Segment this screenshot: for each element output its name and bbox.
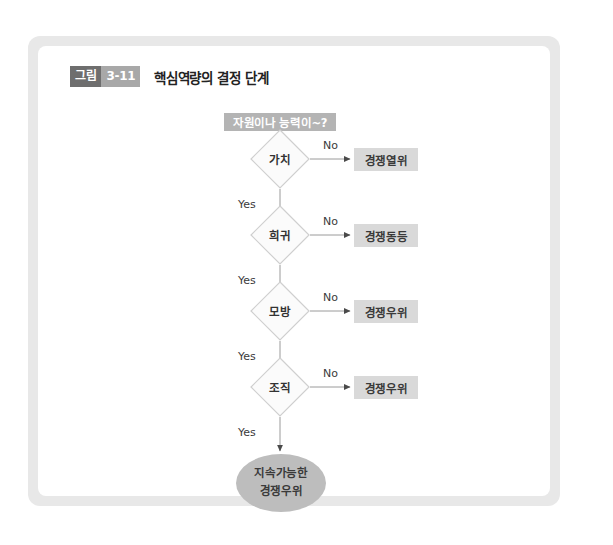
decision-node-1: 가치 [250,129,310,189]
edge-label-no-4: No [323,367,338,380]
decision-label-1: 가치 [250,129,310,189]
terminal-line-2: 경쟁우위 [260,483,303,501]
decision-label-2: 희귀 [250,205,310,265]
edge-label-no-3: No [323,291,338,304]
terminal-node: 지속가능한 경쟁우위 [236,454,326,512]
edge-label-no-2: No [323,215,338,228]
edge-label-no-1: No [323,139,338,152]
outcome-node-2: 경쟁동등 [354,224,418,247]
terminal-line-1: 지속가능한 [254,465,308,483]
outcome-node-3: 경쟁우위 [354,300,418,323]
decision-label-3: 모방 [250,281,310,341]
figure-frame: 그림 3-11 핵심역량의 결정 단계 [28,36,560,506]
edge-label-yes-4: Yes [238,426,256,439]
decision-node-2: 희귀 [250,205,310,265]
decision-node-3: 모방 [250,281,310,341]
decision-node-4: 조직 [250,357,310,417]
outcome-node-4: 경쟁우위 [354,376,418,399]
outcome-node-1: 경쟁열위 [354,148,418,171]
flowchart-canvas: 자원이나 능력이~? 가치 No Yes 경쟁열위 희귀 No Yes 경쟁동등 [38,46,570,516]
decision-label-4: 조직 [250,357,310,417]
figure-panel: 그림 3-11 핵심역량의 결정 단계 [38,46,550,496]
